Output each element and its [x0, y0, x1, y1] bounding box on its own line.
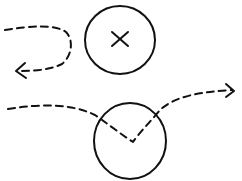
- rejected-path: [5, 27, 71, 72]
- x-mark-icon: [112, 32, 128, 46]
- deflected-path: [8, 90, 232, 142]
- diagram-canvas: [0, 0, 242, 181]
